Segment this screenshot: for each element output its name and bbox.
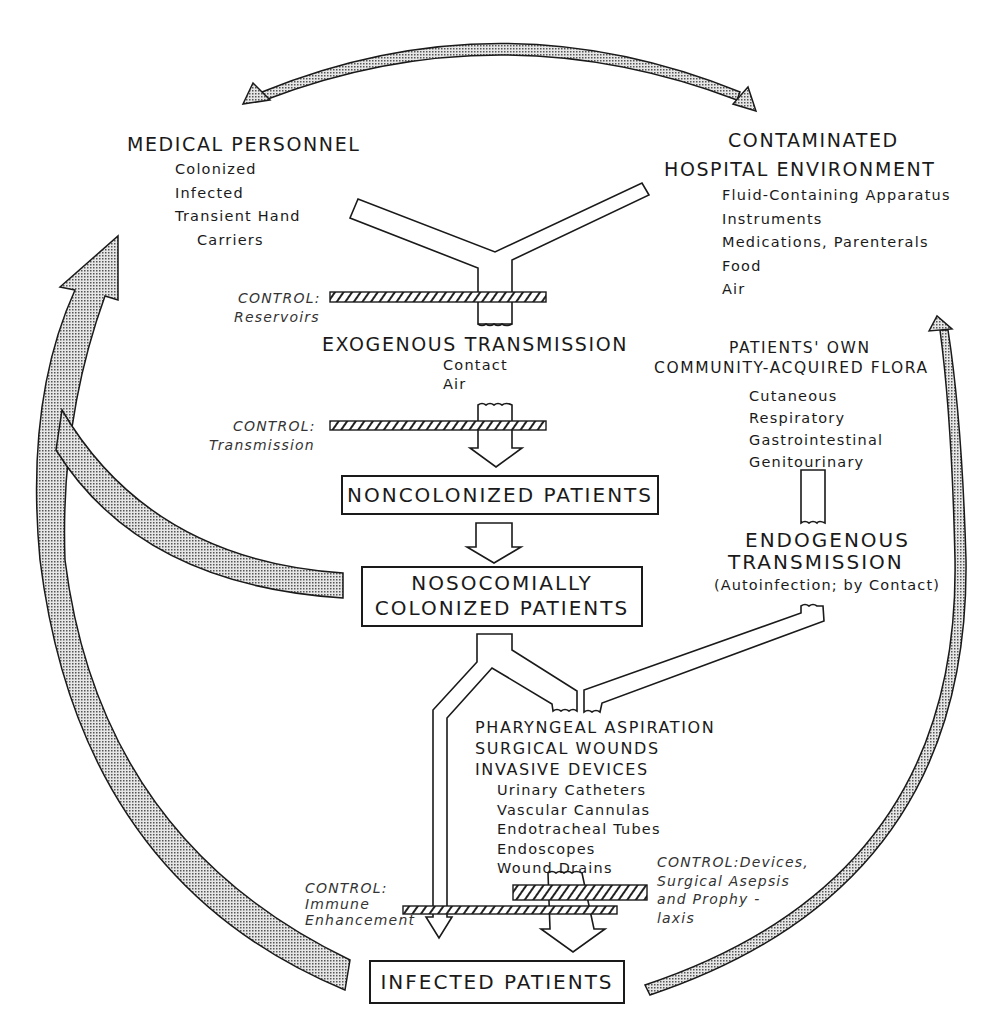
node-medical-personnel-title: MEDICAL PERSONNEL xyxy=(127,135,360,154)
device-item: Wound Drains xyxy=(497,859,661,879)
control-target: Transmission xyxy=(209,436,316,455)
environment-item: Air xyxy=(722,278,951,302)
node-flora-title-2: COMMUNITY-ACQUIRED FLORA xyxy=(654,361,929,377)
control-target: Enhancement xyxy=(305,912,415,928)
arrow-noncolonized-to-colonized xyxy=(467,523,521,563)
environment-item: Medications, Parenterals xyxy=(722,231,951,255)
personnel-item: Carriers xyxy=(175,229,301,253)
environment-item: Fluid-Containing Apparatus xyxy=(722,184,951,208)
personnel-item: Colonized xyxy=(175,158,301,182)
colonized-line-2: COLONIZED PATIENTS xyxy=(363,596,641,621)
device-item: Endoscopes xyxy=(497,840,661,860)
colonized-line-1: NOSOCOMIALLY xyxy=(363,571,641,596)
control-devices-label: CONTROL:Devices, Surgical Asepsis and Pr… xyxy=(657,853,809,927)
portal-item: PHARYNGEAL ASPIRATION xyxy=(475,717,715,738)
personnel-item: Infected xyxy=(175,182,301,206)
exogenous-item: Contact xyxy=(443,356,508,375)
node-environment-title-2: HOSPITAL ENVIRONMENT xyxy=(664,160,936,179)
node-noncolonized-patients: NONCOLONIZED PATIENTS xyxy=(341,475,659,515)
node-endogenous-title-2: TRANSMISSION xyxy=(728,552,904,572)
pipe-transmission xyxy=(470,404,522,468)
node-environment-items: Fluid-Containing Apparatus Instruments M… xyxy=(722,184,951,302)
arrow-infected-to-personnel xyxy=(37,236,350,990)
control-label: CONTROL:Devices, xyxy=(657,853,809,872)
node-exogenous-title: EXOGENOUS TRANSMISSION xyxy=(322,335,628,354)
control-target: Reservoirs xyxy=(234,308,321,327)
control-target: and Prophy - xyxy=(657,890,809,909)
control-bar-immune xyxy=(403,906,617,914)
control-label: CONTROL: xyxy=(238,289,321,308)
control-reservoirs-label: CONTROL: Reservoirs xyxy=(238,289,321,327)
flora-item: Respiratory xyxy=(749,407,883,429)
control-transmission-label: CONTROL: Transmission xyxy=(233,417,316,455)
device-item: Endotracheal Tubes xyxy=(497,820,661,840)
device-item: Vascular Cannulas xyxy=(497,801,661,821)
device-item: Urinary Catheters xyxy=(497,781,661,801)
node-portals-titles: PHARYNGEAL ASPIRATION SURGICAL WOUNDS IN… xyxy=(475,717,715,780)
control-bar-devices xyxy=(513,885,647,900)
control-bar-reservoirs xyxy=(330,292,546,302)
pipe-flora xyxy=(801,470,825,523)
node-environment-title-1: CONTAMINATED xyxy=(728,131,899,150)
control-label: CONTROL: xyxy=(233,417,316,436)
node-medical-personnel-items: Colonized Infected Transient Hand Carrie… xyxy=(175,158,301,252)
control-target: Surgical Asepsis xyxy=(657,872,809,891)
node-infected-patients: INFECTED PATIENTS xyxy=(369,960,625,1004)
environment-item: Food xyxy=(722,255,951,279)
node-endogenous-title-1: ENDOGENOUS xyxy=(745,530,910,550)
personnel-item: Transient Hand xyxy=(175,205,301,229)
environment-item: Instruments xyxy=(722,208,951,232)
node-endogenous-subtitle: (Autoinfection; by Contact) xyxy=(714,578,940,593)
node-portals-devices: Urinary Catheters Vascular Cannulas Endo… xyxy=(497,781,661,879)
funnel-reservoirs xyxy=(350,183,649,326)
control-immune-label: CONTROL: Immune Enhancement xyxy=(305,880,415,928)
arrow-personnel-environment xyxy=(243,44,756,112)
flora-item: Genitourinary xyxy=(749,451,883,473)
node-colonized-patients: NOSOCOMIALLY COLONIZED PATIENTS xyxy=(361,566,643,627)
control-bar-transmission xyxy=(330,421,546,430)
flora-item: Cutaneous xyxy=(749,385,883,407)
flora-item: Gastrointestinal xyxy=(749,429,883,451)
control-target: Immune xyxy=(305,896,415,912)
portal-item: INVASIVE DEVICES xyxy=(475,759,715,780)
portal-item: SURGICAL WOUNDS xyxy=(475,738,715,759)
node-flora-items: Cutaneous Respiratory Gastrointestinal G… xyxy=(749,385,883,473)
control-label: CONTROL: xyxy=(305,880,415,896)
control-target: laxis xyxy=(657,909,809,928)
node-flora-title-1: PATIENTS' OWN xyxy=(729,341,871,357)
exogenous-item: Air xyxy=(443,375,508,394)
node-exogenous-items: Contact Air xyxy=(443,356,508,394)
